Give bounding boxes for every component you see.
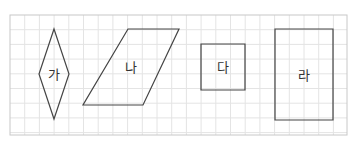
grid-background (10, 15, 347, 135)
grid-border (10, 15, 347, 135)
shape-diagram: 가나다라 (0, 0, 353, 156)
shape-da: 다 (201, 44, 245, 90)
shape-label: 다 (217, 60, 229, 75)
shape-label: 나 (125, 60, 137, 75)
shape-label: 라 (298, 68, 310, 83)
shape-na: 나 (83, 29, 179, 105)
shape-label: 가 (48, 67, 60, 82)
